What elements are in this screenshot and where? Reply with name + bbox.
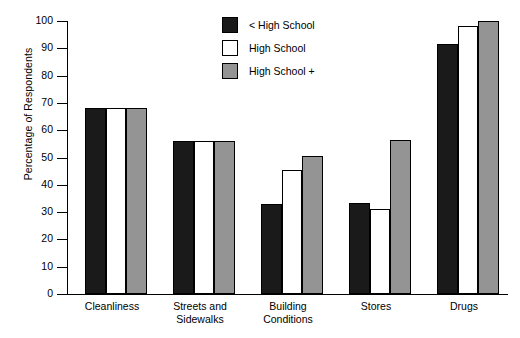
y-axis-tick-80: 80 bbox=[57, 76, 67, 77]
y-axis-tick-label: 20 bbox=[41, 232, 53, 244]
bar-stores-high-school-plus bbox=[390, 140, 411, 294]
y-axis-tick-label: 90 bbox=[41, 41, 53, 53]
y-axis-tick-30: 30 bbox=[57, 212, 67, 213]
y-axis-tick-100: 100 bbox=[57, 21, 67, 22]
legend-swatch-high-school-plus bbox=[222, 63, 238, 79]
bar-streets-and-sidewalks-high-school-plus bbox=[214, 141, 235, 294]
legend-swatch-high-school bbox=[222, 40, 238, 56]
y-axis-tick-label: 10 bbox=[41, 260, 53, 272]
y-axis-title: Percentage of Respondents bbox=[22, 4, 34, 224]
legend-swatch-lt-high-school bbox=[222, 17, 238, 33]
y-axis-tick-10: 10 bbox=[57, 267, 67, 268]
bar-group-stores bbox=[349, 21, 411, 294]
y-axis-tick-label: 60 bbox=[41, 123, 53, 135]
y-axis-tick-label: 80 bbox=[41, 69, 53, 81]
y-axis-tick-label: 70 bbox=[41, 96, 53, 108]
y-axis-tick-0: 0 bbox=[57, 294, 67, 295]
y-axis-tick-40: 40 bbox=[57, 185, 67, 186]
y-axis-tick-50: 50 bbox=[57, 158, 67, 159]
legend-item-high-school-plus: High School + bbox=[222, 59, 315, 82]
y-axis-tick-60: 60 bbox=[57, 130, 67, 131]
bar-building-conditions-high-school-plus bbox=[302, 156, 323, 294]
bar-cleanliness-high-school-plus bbox=[126, 108, 147, 294]
legend-item-lt-high-school: < High School bbox=[222, 13, 315, 36]
legend-item-high-school: High School bbox=[222, 36, 315, 59]
bar-cleanliness-lt-high-school bbox=[85, 108, 106, 294]
y-axis-tick-70: 70 bbox=[57, 103, 67, 104]
y-axis-tick-label: 40 bbox=[41, 178, 53, 190]
legend-label: High School + bbox=[249, 65, 315, 77]
bar-building-conditions-high-school bbox=[282, 170, 303, 294]
y-axis-tick-label: 0 bbox=[47, 287, 53, 299]
x-axis-label-drugs: Drugs bbox=[404, 300, 520, 313]
legend: < High SchoolHigh SchoolHigh School + bbox=[222, 13, 315, 82]
bar-group-drugs bbox=[437, 21, 499, 294]
x-axis-line bbox=[67, 294, 508, 295]
bar-stores-high-school bbox=[370, 209, 391, 294]
y-axis-tick-label: 30 bbox=[41, 205, 53, 217]
bar-drugs-high-school bbox=[458, 26, 479, 294]
bar-cleanliness-high-school bbox=[106, 108, 127, 294]
bar-group-cleanliness bbox=[85, 21, 147, 294]
legend-label: < High School bbox=[249, 19, 315, 31]
bar-drugs-lt-high-school bbox=[437, 44, 458, 294]
bar-stores-lt-high-school bbox=[349, 203, 370, 294]
bar-chart: Percentage of Respondents 10090807060504… bbox=[0, 0, 520, 338]
y-axis-tick-90: 90 bbox=[57, 48, 67, 49]
bar-drugs-high-school-plus bbox=[478, 21, 499, 294]
y-axis-tick-label: 50 bbox=[41, 151, 53, 163]
legend-label: High School bbox=[249, 42, 306, 54]
y-axis-tick-label: 100 bbox=[35, 14, 53, 26]
bar-building-conditions-lt-high-school bbox=[261, 204, 282, 294]
bar-streets-and-sidewalks-lt-high-school bbox=[173, 141, 194, 294]
y-axis-tick-20: 20 bbox=[57, 239, 67, 240]
bar-streets-and-sidewalks-high-school bbox=[194, 141, 215, 294]
